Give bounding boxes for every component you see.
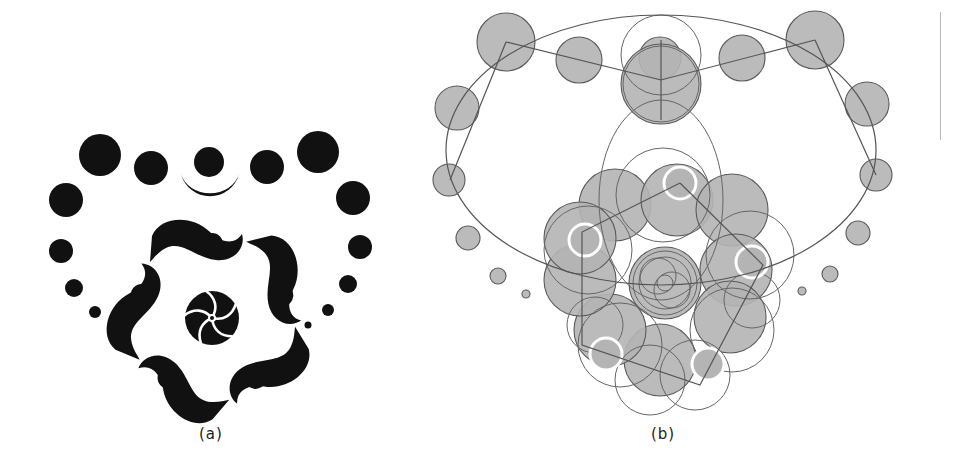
side-rule-line	[940, 12, 941, 140]
swirl-arms	[99, 220, 320, 434]
gray-filled-circles	[433, 11, 892, 396]
panel-a-heart-pattern: (a)	[0, 0, 440, 472]
heart-pattern-graphic	[0, 0, 440, 472]
crescent-shape	[181, 174, 239, 196]
caption-b: (b)	[651, 425, 675, 443]
caption-a: (a)	[199, 425, 223, 443]
panel-b-construction-diagram: (b)	[420, 0, 962, 472]
central-rosette	[184, 291, 239, 345]
swirl-arm	[150, 220, 243, 262]
construction-diagram-graphic	[420, 0, 962, 472]
